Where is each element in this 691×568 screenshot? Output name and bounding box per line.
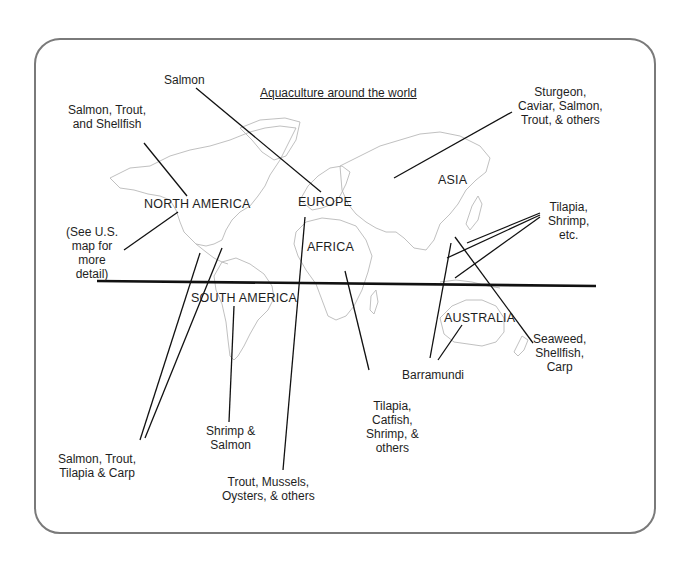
region-south-america: SOUTH AMERICA bbox=[191, 291, 297, 305]
region-north-america: NORTH AMERICA bbox=[144, 197, 251, 211]
leader-see-us-map bbox=[124, 212, 178, 250]
leader-africa-tilapia bbox=[345, 271, 369, 370]
callout-salmon: Salmon bbox=[164, 73, 205, 87]
callout-seaweed: Seaweed, Shellfish, Carp bbox=[533, 332, 586, 374]
leader-barramundi-1 bbox=[430, 243, 451, 358]
equator-line bbox=[97, 281, 596, 286]
leader-sa-2 bbox=[145, 248, 222, 438]
leader-tilapia-1 bbox=[467, 213, 540, 243]
region-europe: EUROPE bbox=[298, 195, 352, 209]
leader-salmon-europe bbox=[196, 88, 321, 192]
callout-sturgeon: Sturgeon, Caviar, Salmon, Trout, & other… bbox=[518, 85, 603, 127]
leader-sturgeon-asia bbox=[394, 112, 512, 178]
callout-see-us-map: (See U.S. map for more detail) bbox=[66, 225, 118, 281]
leader-na-salmon-trout bbox=[144, 143, 187, 196]
callout-tilapia-shrimp-etc: Tilapia, Shrimp, etc. bbox=[548, 200, 589, 242]
diagram-title: Aquaculture around the world bbox=[260, 86, 417, 100]
region-australia: AUSTRALIA bbox=[444, 311, 515, 325]
callout-shrimp-salmon: Shrimp & Salmon bbox=[206, 424, 255, 452]
callout-tilapia-catfish: Tilapia, Catfish, Shrimp, & others bbox=[366, 399, 419, 455]
leader-seaweed bbox=[455, 237, 533, 343]
region-asia: ASIA bbox=[438, 173, 467, 187]
callout-barramundi: Barramundi bbox=[402, 368, 464, 382]
leader-tilapia-2 bbox=[447, 215, 540, 258]
leader-trout-mussels bbox=[283, 217, 305, 470]
callout-salmon-trout-shellfish: Salmon, Trout, and Shellfish bbox=[68, 103, 146, 131]
callout-trout-mussels: Trout, Mussels, Oysters, & others bbox=[222, 475, 315, 503]
leader-shrimp-salmon bbox=[229, 306, 234, 422]
region-africa: AFRICA bbox=[307, 240, 354, 254]
callout-salmon-trout-tilapia-carp: Salmon, Trout, Tilapia & Carp bbox=[58, 452, 136, 480]
